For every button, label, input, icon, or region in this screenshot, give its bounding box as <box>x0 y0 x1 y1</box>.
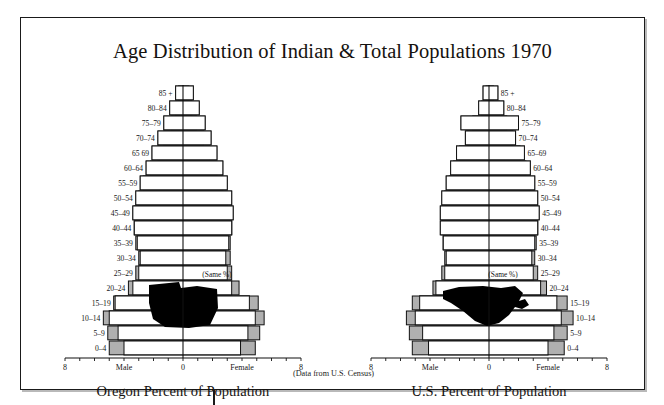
age-group-label: 70–74 <box>136 134 155 143</box>
source-note: (Data from U.S. Census) <box>21 369 646 378</box>
age-group-label: 75–79 <box>522 119 541 128</box>
age-group-label: 20–24 <box>550 284 569 293</box>
age-group-label: 75–79 <box>142 119 161 128</box>
chart-caption-oregon: Oregon Percent of Population <box>33 383 333 400</box>
age-group-label: 30–34 <box>117 254 136 263</box>
age-group-label: 20–24 <box>106 284 125 293</box>
age-group-label: 10–14 <box>576 314 595 323</box>
decorative-rule <box>213 389 215 405</box>
age-group-label: 50–54 <box>114 194 133 203</box>
age-group-label: 40–44 <box>112 224 131 233</box>
age-group-label: 65 69 <box>132 149 149 158</box>
age-group-label: 15–19 <box>92 299 111 308</box>
age-group-label: 80–84 <box>148 104 167 113</box>
age-group-label: 0–4 <box>567 344 579 353</box>
age-group-label: 55–59 <box>118 179 137 188</box>
age-group-label: 85 + <box>501 89 515 98</box>
age-group-label: 0–4 <box>95 344 107 353</box>
age-group-label: 70–74 <box>519 134 538 143</box>
chart-panel-us: (Same %)85 +80–8475–7970–7465–6960–6455–… <box>339 80 639 380</box>
age-group-label: 50–54 <box>541 194 560 203</box>
age-group-label: 10–14 <box>81 314 100 323</box>
age-group-label: 25–29 <box>114 269 133 278</box>
age-group-label: 30–34 <box>538 254 557 263</box>
age-group-label: 40–44 <box>541 224 560 233</box>
same-percent-note: (Same %) <box>202 270 232 279</box>
age-group-label: 80–84 <box>507 104 526 113</box>
age-group-label: 25–29 <box>541 269 560 278</box>
age-group-label: 55–59 <box>538 179 557 188</box>
page-title: Age Distribution of Indian & Total Popul… <box>21 40 644 63</box>
chart-caption-us: U.S. Percent of Population <box>339 383 639 400</box>
age-group-label: 60–64 <box>533 164 552 173</box>
poster-frame: Age Distribution of Indian & Total Popul… <box>20 17 645 390</box>
population-pyramid-oregon: (Same %)85 +80–8475–7970–7465 6960–6455–… <box>33 80 333 380</box>
age-group-label: 60–64 <box>124 164 143 173</box>
chart-panel-oregon: (Same %)85 +80–8475–7970–7465 6960–6455–… <box>33 80 333 380</box>
population-pyramid-us: (Same %)85 +80–8475–7970–7465–6960–6455–… <box>339 80 639 380</box>
same-percent-note: (Same %) <box>488 270 518 279</box>
age-group-label: 85 + <box>159 89 173 98</box>
age-group-label: 45–49 <box>542 209 561 218</box>
age-group-label: 65–69 <box>527 149 546 158</box>
age-group-label: 15–19 <box>570 299 589 308</box>
age-group-label: 5–9 <box>570 329 582 338</box>
age-group-label: 45–49 <box>111 209 130 218</box>
age-group-label: 5–9 <box>93 329 105 338</box>
age-group-label: 35–39 <box>114 239 133 248</box>
age-group-label: 35–39 <box>539 239 558 248</box>
